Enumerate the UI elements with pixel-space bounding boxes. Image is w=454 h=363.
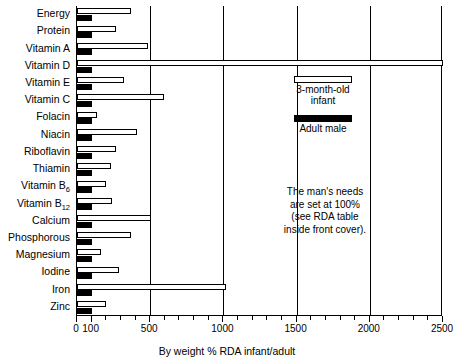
bar-adult	[77, 308, 92, 314]
category-label: Niacin	[41, 129, 70, 140]
axis-tick	[413, 316, 414, 320]
axis-tick	[193, 316, 194, 320]
gridline	[370, 6, 371, 315]
legend-label: Adult male	[283, 123, 363, 134]
legend-entry: Adult male	[283, 115, 363, 134]
axis-tick	[310, 316, 311, 320]
axis-tick	[398, 316, 399, 320]
legend-label: 3-month-old	[283, 84, 363, 95]
bar-adult	[77, 84, 92, 90]
rda-comparison-chart: EnergyProteinVitamin AVitamin DVitamin E…	[0, 0, 454, 363]
bar-infant	[77, 112, 97, 118]
bar-infant	[77, 267, 119, 273]
category-label: Energy	[37, 8, 70, 19]
category-label: Vitamin C	[25, 94, 70, 105]
axis-tick	[354, 316, 355, 320]
legend-swatch	[294, 115, 352, 122]
axis-tick	[369, 316, 370, 322]
axis-tick	[164, 316, 165, 320]
bar-adult	[77, 49, 92, 55]
category-label: Iodine	[41, 266, 70, 277]
chart-legend: 3-month-oldinfantAdult male	[283, 76, 363, 134]
category-label: Folacin	[36, 111, 70, 122]
axis-tick	[340, 316, 341, 320]
bar-adult	[77, 32, 92, 38]
axis-tick-label: 2500	[431, 323, 453, 334]
bar-infant	[77, 198, 112, 204]
bar-adult	[77, 153, 92, 159]
bar-infant	[77, 301, 106, 307]
bar-adult	[77, 118, 92, 124]
axis-tick	[427, 316, 428, 320]
axis-tick-label: 100	[82, 323, 99, 334]
category-label: Protein	[37, 25, 70, 36]
gridline	[223, 6, 224, 315]
bar-infant	[77, 284, 226, 290]
category-label: Calcium	[32, 215, 70, 226]
axis-tick-label: 1000	[211, 323, 233, 334]
bar-adult	[77, 256, 92, 262]
gridline	[150, 6, 151, 315]
axis-tick	[178, 316, 179, 320]
annotation-line: (see RDA table	[262, 211, 388, 224]
bar-infant	[77, 215, 151, 221]
x-axis: 01005001000150020002500	[76, 316, 442, 336]
annotation-line: The man's needs	[262, 186, 388, 199]
bar-infant	[77, 26, 116, 32]
axis-tick	[266, 316, 267, 320]
bar-adult	[77, 204, 92, 210]
bar-infant	[77, 77, 124, 83]
bar-infant	[77, 181, 106, 187]
bar-infant	[77, 43, 148, 49]
bar-infant	[77, 163, 111, 169]
axis-tick-label: 2000	[358, 323, 380, 334]
axis-tick	[120, 316, 121, 320]
bar-adult	[77, 222, 92, 228]
bar-infant	[77, 60, 443, 66]
axis-tick	[208, 316, 209, 320]
bar-adult	[77, 135, 92, 141]
axis-tick-label: 0	[73, 323, 79, 334]
category-label: Vitamin A	[26, 43, 70, 54]
axis-tick	[76, 316, 77, 322]
annotation-line: are set at 100%	[262, 199, 388, 212]
category-label: Vitamin B12	[17, 198, 70, 209]
bar-infant	[77, 94, 164, 100]
category-label: Iron	[52, 284, 70, 295]
category-label: Vitamin E	[25, 77, 70, 88]
bar-adult	[77, 170, 92, 176]
category-label: Zinc	[50, 301, 70, 312]
legend-swatch	[294, 76, 352, 83]
axis-tick-label: 1500	[284, 323, 306, 334]
plot-area	[76, 6, 442, 316]
bar-infant	[77, 232, 131, 238]
axis-tick	[325, 316, 326, 320]
bar-infant	[77, 249, 101, 255]
bar-adult	[77, 239, 92, 245]
axis-tick	[91, 316, 92, 322]
bar-infant	[77, 8, 131, 14]
axis-tick	[296, 316, 297, 322]
category-label: Riboflavin	[24, 146, 70, 157]
axis-tick-label: 500	[141, 323, 158, 334]
bar-adult	[77, 290, 92, 296]
bar-adult	[77, 273, 92, 279]
category-label: Magnesium	[16, 249, 70, 260]
axis-tick	[442, 316, 443, 322]
annotation-line: inside front cover).	[262, 224, 388, 237]
axis-tick	[281, 316, 282, 320]
axis-tick	[135, 316, 136, 320]
axis-tick	[105, 316, 106, 320]
bar-infant	[77, 146, 116, 152]
category-label: Phosphorous	[8, 232, 70, 243]
category-label: Vitamin B6	[21, 180, 70, 191]
axis-tick	[237, 316, 238, 320]
bar-adult	[77, 15, 92, 21]
bar-adult	[77, 187, 92, 193]
axis-tick	[383, 316, 384, 320]
category-label: Vitamin D	[25, 60, 70, 71]
bar-adult	[77, 101, 92, 107]
bar-infant	[77, 129, 137, 135]
legend-label-line2: infant	[283, 95, 363, 106]
axis-tick	[149, 316, 150, 322]
